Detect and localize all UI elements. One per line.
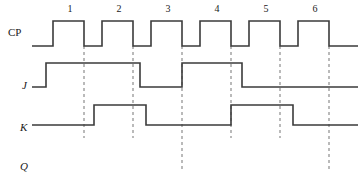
signal-labels: CP J K Q (8, 26, 28, 172)
pulse-number-6: 6 (313, 3, 318, 14)
signal-label-k: K (19, 121, 28, 133)
signal-label-cp: CP (8, 26, 21, 38)
waveforms (32, 21, 358, 125)
waveform-j (32, 63, 358, 87)
signal-label-j: J (22, 79, 28, 91)
pulse-number-5: 5 (264, 3, 269, 14)
pulse-number-2: 2 (117, 3, 122, 14)
signal-label-q: Q (20, 160, 28, 172)
timing-diagram: 1 2 3 4 5 6 CP J K Q (0, 0, 360, 189)
pulse-number-1: 1 (68, 3, 73, 14)
timing-diagram-canvas: 1 2 3 4 5 6 CP J K Q (0, 0, 360, 189)
pulse-number-4: 4 (215, 3, 220, 14)
waveform-cp (32, 21, 358, 46)
pulse-number-3: 3 (166, 3, 171, 14)
waveform-k (32, 105, 358, 125)
pulse-number-row: 1 2 3 4 5 6 (68, 3, 318, 14)
